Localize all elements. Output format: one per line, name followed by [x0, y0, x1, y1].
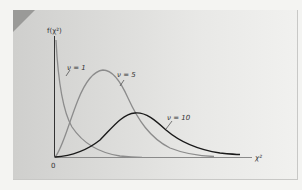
curve-nu-10: [55, 113, 240, 157]
series-label-nu-5: ν = 5: [117, 71, 136, 79]
origin-label: 0: [51, 162, 55, 170]
series-label-nu-10: ν = 10: [167, 114, 191, 122]
y-axis-label: f(χ²): [47, 27, 62, 35]
x-axis-label: χ²: [254, 154, 262, 162]
leader-nu-10: [166, 121, 172, 129]
chi-square-chart: f(χ²) 0 χ² ν = 1 ν = 5 ν = 10: [0, 0, 302, 190]
corner-tab-decoration: [13, 10, 35, 32]
series-label-nu-1: ν = 1: [67, 64, 86, 72]
curve-nu-1: [56, 40, 142, 157]
